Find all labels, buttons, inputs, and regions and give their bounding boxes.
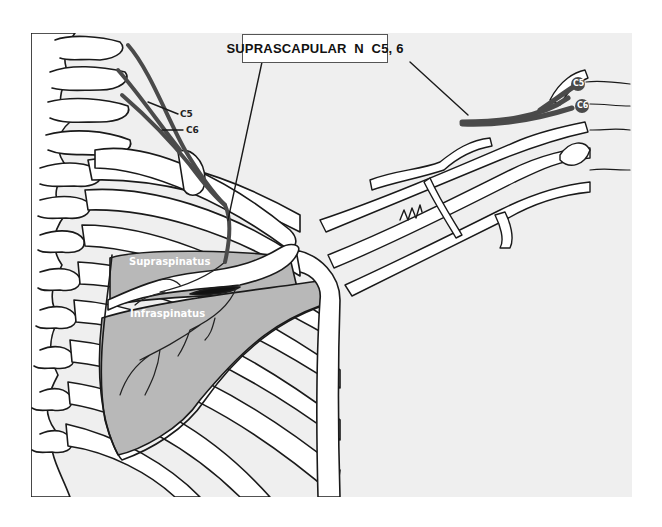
c5-label-right: C5	[573, 79, 584, 88]
infraspinatus-label: Infraspinatus	[130, 308, 205, 319]
anatomy-illustration	[0, 0, 662, 527]
title-label: SUPRASCAPULAR N C5, 6	[242, 34, 388, 63]
scapula-infraspinatus	[99, 280, 325, 455]
c5-label-left: C5	[180, 109, 193, 119]
leader-lines	[148, 62, 468, 220]
c6-label-left: C6	[186, 125, 199, 135]
supraspinatus-label: Supraspinatus	[129, 256, 210, 267]
c6-label-right: C6	[577, 101, 588, 110]
